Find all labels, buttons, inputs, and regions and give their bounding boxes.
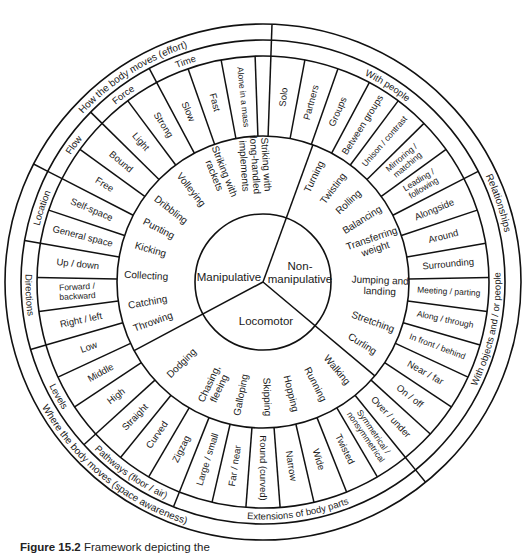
wheel-labels: ManipulativeNon-manipulativeLocomotorStr… xyxy=(9,36,513,536)
figure-caption-text: Framework depicting the xyxy=(84,541,210,553)
concept-item-9: Surrounding xyxy=(422,255,475,271)
category-divider-1 xyxy=(464,171,478,178)
skill-manipulative-1: Striking withrackets xyxy=(200,144,241,202)
concept-item-32: General space xyxy=(52,223,115,249)
item-divider-20 xyxy=(274,428,280,508)
concept-item-21: Far / near xyxy=(225,445,242,487)
skill-non-manipulative-7: Curling xyxy=(346,330,379,356)
concept-item-11: Along / through xyxy=(416,309,475,331)
skill-manipulative-2: Volleying xyxy=(175,170,208,208)
concept-item-10: Meeting / parting xyxy=(417,285,481,299)
skill-locomotor-6: Dodging xyxy=(164,346,198,380)
concept-item-23: Zigzag xyxy=(169,433,191,463)
concept-item-13: Near / far xyxy=(406,357,446,386)
skill-non-manipulative-2: Rolling xyxy=(333,187,363,216)
category-label-7: Flow xyxy=(63,133,84,156)
item-divider-1 xyxy=(290,60,305,139)
item-divider-41 xyxy=(255,56,258,136)
concept-item-12: In front / behind xyxy=(408,332,467,362)
category-divider-6 xyxy=(25,241,41,244)
item-divider-21 xyxy=(246,428,252,508)
figure-caption-label: Figure 15.2 xyxy=(20,541,81,553)
skill-locomotor-3: Skipping xyxy=(262,378,274,417)
concept-item-36: Light xyxy=(131,130,153,153)
figure-caption: Figure 15.2 Framework depicting the xyxy=(20,541,210,553)
core-divider-1 xyxy=(263,282,375,376)
concept-item-26: High xyxy=(105,385,127,406)
core-non-manipulative: Non-manipulative xyxy=(268,260,333,285)
category-divider-4 xyxy=(84,434,96,445)
category-divider-2 xyxy=(405,457,415,469)
skill-manipulative-6: Collecting xyxy=(124,268,168,281)
skill-locomotor-2: Hopping xyxy=(282,374,302,413)
core-manipulative: Manipulative xyxy=(197,271,262,283)
item-divider-31 xyxy=(37,277,117,279)
core-locomotor: Locomotor xyxy=(239,315,294,327)
category-divider-3 xyxy=(173,492,179,507)
skill-non-manipulative-0: Turning xyxy=(301,159,326,194)
concept-item-27: Middle xyxy=(85,360,115,383)
concept-item-18: Wide xyxy=(311,447,328,471)
concept-item-33: Self-space xyxy=(69,195,115,223)
category-divider-0 xyxy=(271,40,272,56)
concept-item-20: Round (curved) xyxy=(258,435,269,500)
skill-locomotor-0: Walking xyxy=(322,353,353,387)
concept-item-8: Around xyxy=(427,226,459,244)
concept-item-34: Free xyxy=(94,174,116,194)
concept-item-29: Right / left xyxy=(59,309,103,329)
concept-item-30: Forward /backward xyxy=(59,281,97,302)
skill-manipulative-0: Striking withlong-handledimplements xyxy=(237,135,274,195)
skill-manipulative-8: Throwing xyxy=(132,309,174,333)
outer-divider-1 xyxy=(416,470,426,482)
item-divider-9 xyxy=(407,243,486,257)
skill-locomotor-5: Chasing,fleeing xyxy=(195,363,232,408)
item-divider-30 xyxy=(39,301,118,311)
concept-item-1: Partners xyxy=(300,83,320,121)
concept-item-24: Curved xyxy=(143,419,169,450)
outer-label-2: How the body moves (effort) xyxy=(76,39,188,116)
category-label-5: Directions xyxy=(23,274,36,317)
concept-item-2: Groups xyxy=(326,95,349,128)
concept-item-22: Large / small xyxy=(193,432,220,487)
concept-item-31: Up / down xyxy=(56,256,100,271)
skill-locomotor-4: Galloping xyxy=(231,373,250,417)
skill-manipulative-7: Catching xyxy=(127,293,168,311)
concept-item-7: Alongside xyxy=(413,196,456,222)
skill-non-manipulative-5: Jumping andlanding xyxy=(351,273,409,297)
skill-manipulative-5: Kicking xyxy=(134,239,168,258)
concept-item-39: Fast xyxy=(208,92,224,113)
movement-framework-wheel: ManipulativeNon-manipulativeLocomotorStr… xyxy=(0,0,526,559)
skill-non-manipulative-6: Stretching xyxy=(350,308,396,334)
outer-divider-2 xyxy=(34,164,48,171)
concept-item-0: Solo xyxy=(276,87,289,107)
skill-locomotor-1: Running xyxy=(303,365,330,403)
category-divider-5 xyxy=(31,345,46,349)
concept-item-40: Alone in a mass xyxy=(235,66,252,127)
item-divider-0 xyxy=(268,56,271,136)
item-divider-10 xyxy=(409,277,489,279)
concept-item-38: Slow xyxy=(180,100,198,123)
item-divider-19 xyxy=(296,424,314,502)
skill-manipulative-4: Punting xyxy=(142,216,177,241)
concept-item-19: Narrow xyxy=(284,450,300,482)
category-divider-7 xyxy=(48,171,62,178)
outer-divider-0 xyxy=(271,24,272,40)
concept-item-28: Low xyxy=(78,338,98,354)
category-divider-8 xyxy=(91,112,102,123)
item-divider-40 xyxy=(221,60,236,139)
category-divider-9 xyxy=(149,68,157,82)
